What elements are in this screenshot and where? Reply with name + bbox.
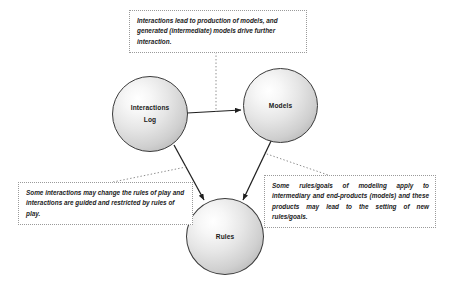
note-right[interactable]: Some rules/goals of modeling apply to in…: [264, 175, 436, 228]
node-rules-label: Rules: [216, 231, 234, 243]
node-interactions-log-label: Interactions Log: [131, 102, 170, 125]
note-left[interactable]: Some interactions may change the rules o…: [18, 182, 193, 225]
node-interactions-log-line1: Interactions: [131, 104, 170, 111]
note-left-text: Some interactions may change the rules o…: [26, 188, 186, 219]
node-rules[interactable]: Rules: [186, 198, 264, 275]
connector-log-to-models: [187, 110, 241, 113]
node-interactions-log-line2: Log: [144, 116, 156, 123]
leader-left-note: [113, 167, 186, 182]
note-right-text: Some rules/goals of modeling apply to in…: [272, 181, 429, 223]
node-models[interactable]: Models: [243, 68, 318, 143]
node-models-label: Models: [269, 100, 292, 112]
leader-right-note: [264, 153, 331, 176]
note-top-text: Interactions lead to production of model…: [137, 16, 300, 47]
diagram-canvas: Interactions Log Models Rules Interactio…: [0, 0, 450, 284]
note-top[interactable]: Interactions lead to production of model…: [129, 10, 307, 53]
node-interactions-log[interactable]: Interactions Log: [112, 76, 188, 152]
